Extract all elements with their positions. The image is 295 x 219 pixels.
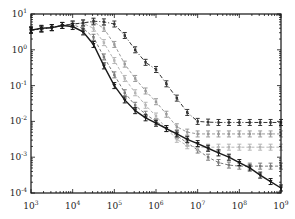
x-axis-tick-labels: 103104105106107108109 bbox=[23, 199, 288, 211]
x-tick-label: 103 bbox=[23, 199, 38, 211]
x-tick-label: 106 bbox=[148, 199, 163, 211]
y-tick-label: 10-4 bbox=[10, 186, 27, 198]
x-tick-label: 108 bbox=[232, 199, 247, 211]
data-series-series-1 bbox=[29, 22, 283, 191]
x-tick-label: 104 bbox=[65, 199, 80, 211]
y-tick-label: 10-2 bbox=[10, 114, 27, 126]
x-tick-label: 109 bbox=[273, 199, 288, 211]
y-tick-label: 10-1 bbox=[10, 79, 27, 91]
x-tick-label: 105 bbox=[107, 199, 122, 211]
data-series-series-4 bbox=[29, 20, 283, 150]
data-series-series-5 bbox=[29, 22, 283, 169]
data-series-series-2 bbox=[29, 18, 283, 125]
series-layer bbox=[29, 18, 283, 191]
y-tick-label: 101 bbox=[12, 7, 27, 19]
log-log-chart: 103104105106107108109 10110010-110-210-3… bbox=[0, 0, 295, 219]
y-tick-label: 100 bbox=[12, 43, 27, 55]
y-axis-tick-labels: 10110010-110-210-310-4 bbox=[10, 7, 27, 198]
y-tick-label: 10-3 bbox=[10, 150, 27, 162]
x-tick-label: 107 bbox=[190, 199, 205, 211]
